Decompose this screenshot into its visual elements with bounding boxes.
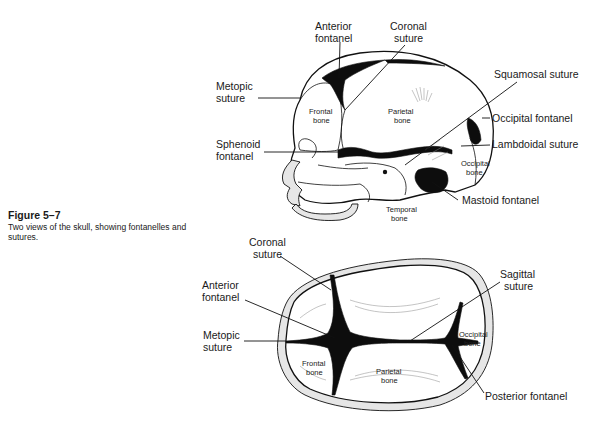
label-sphenoid-fontanel-1: Sphenoid <box>216 138 261 150</box>
label-sagittal-suture-2: suture <box>504 280 533 292</box>
skull-diagram: Frontal bone Parietal bone Occipital bon… <box>0 0 595 436</box>
label-coronal-suture-2: suture <box>394 32 423 44</box>
superior-skull-view: Frontal bone Parietal bone Occipital bon… <box>202 236 567 411</box>
superior-label-metopic-suture-2: suture <box>203 341 232 353</box>
lateral-skull-view: Frontal bone Parietal bone Occipital bon… <box>216 20 579 223</box>
label-coronal-suture-1: Coronal <box>390 20 427 32</box>
label-sagittal-suture-1: Sagittal <box>500 268 535 280</box>
label-anterior-fontanel-2: fontanel <box>315 32 352 44</box>
parietal-bone-label-2: bone <box>394 116 411 125</box>
frontal-bone-label-1: Frontal <box>309 107 333 116</box>
superior-label-coronal-suture-2: suture <box>253 248 282 260</box>
temporal-bone-label-2: bone <box>391 214 408 223</box>
label-lambdoidal-suture: Lambdoidal suture <box>492 138 579 150</box>
superior-parietal-bone-label-2: bone <box>381 376 398 385</box>
mandible-shape <box>292 204 358 221</box>
superior-label-anterior-fontanel-2: fontanel <box>202 291 239 303</box>
occipital-bone-label-1: Occipital <box>461 159 490 168</box>
superior-parietal-bone-label-1: Parietal <box>376 367 402 376</box>
label-metopic-suture-1: Metopic <box>216 80 253 92</box>
ear-canal <box>383 170 387 174</box>
label-occipital-fontanel: Occipital fontanel <box>492 112 573 124</box>
superior-frontal-bone-label-2: bone <box>306 368 323 377</box>
superior-label-coronal-suture-1: Coronal <box>249 236 286 248</box>
label-sphenoid-fontanel-2: fontanel <box>216 150 253 162</box>
temporal-bone-label-1: Temporal <box>386 205 417 214</box>
superior-occipital-bone-label-1: Occipital <box>459 330 488 339</box>
superior-frontal-bone-label-1: Frontal <box>302 359 326 368</box>
lateral-cranium-outline <box>290 51 493 203</box>
superior-label-metopic-suture-1: Metopic <box>203 329 240 341</box>
label-anterior-fontanel-1: Anterior <box>315 20 352 32</box>
superior-label-anterior-fontanel-1: Anterior <box>202 279 239 291</box>
label-squamosal-suture: Squamosal suture <box>494 68 579 80</box>
occipital-bone-label-2: bone <box>466 168 483 177</box>
label-posterior-fontanel: Posterior fontanel <box>485 390 567 402</box>
label-metopic-suture-2: suture <box>216 92 245 104</box>
parietal-bone-label-1: Parietal <box>388 107 414 116</box>
frontal-bone-label-2: bone <box>313 116 330 125</box>
label-mastoid-fontanel: Mastoid fontanel <box>462 194 539 206</box>
superior-occipital-bone-label-2: bone <box>464 339 481 348</box>
